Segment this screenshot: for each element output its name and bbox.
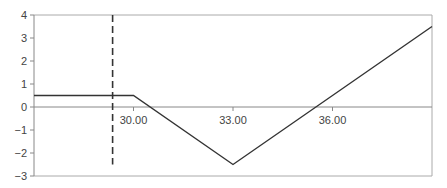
x-axis: 30.0033.0036.00 xyxy=(34,107,432,126)
y-tick-label: 2 xyxy=(21,55,27,67)
y-tick-label: 0 xyxy=(21,101,27,113)
y-tick-label: 3 xyxy=(21,32,27,44)
y-tick-label: 4 xyxy=(21,9,27,21)
y-tick-label: 1 xyxy=(21,78,27,90)
series-layer xyxy=(34,27,432,165)
y-axis: 43210−1−2−3 xyxy=(14,9,34,182)
x-tick-label: 36.00 xyxy=(319,114,347,126)
y-tick-label: −1 xyxy=(14,124,27,136)
x-tick-label: 30.00 xyxy=(120,114,148,126)
x-tick-label: 33.00 xyxy=(219,114,247,126)
y-tick-label: −3 xyxy=(14,170,27,182)
y-tick-label: −2 xyxy=(14,147,27,159)
payoff-line xyxy=(34,27,432,165)
payoff-chart: 43210−1−2−3 30.0033.0036.00 xyxy=(0,0,447,188)
